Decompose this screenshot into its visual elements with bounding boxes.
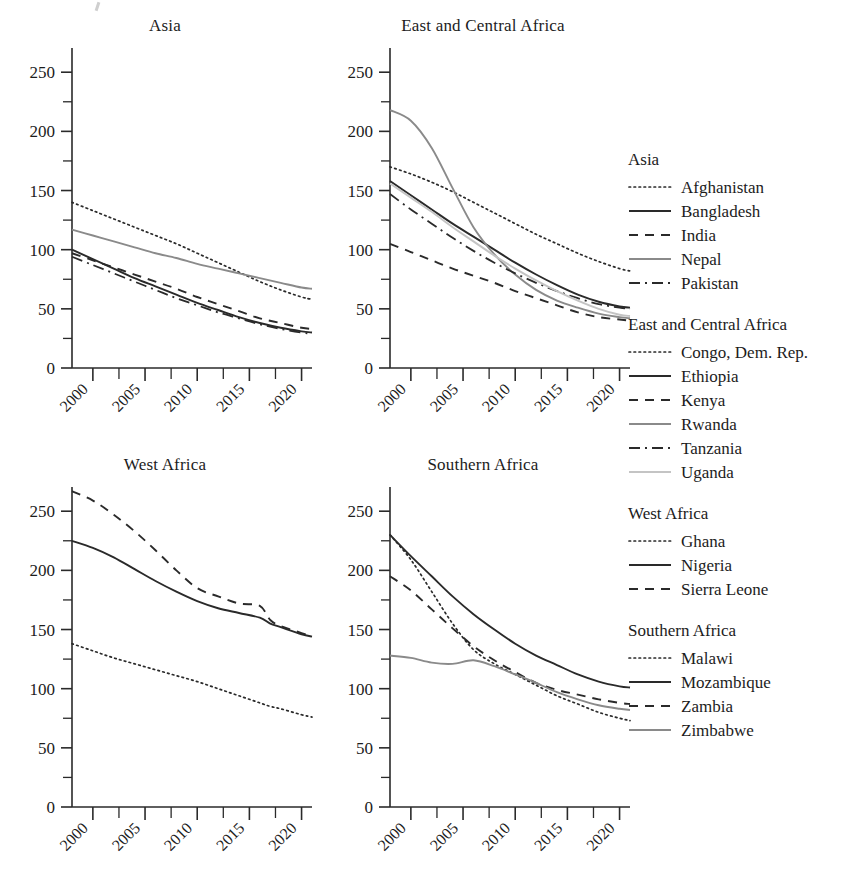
y-tick-label: 200 xyxy=(30,122,56,141)
legend-item[interactable]: Mozambique xyxy=(628,670,851,694)
panel-southern-africa: Southern Africa 050100150200250200020052… xyxy=(318,455,648,871)
legend-group-southern-africa: Southern AfricaMalawiMozambiqueZambiaZim… xyxy=(628,621,851,742)
legend: AsiaAfghanistanBangladeshIndiaNepalPakis… xyxy=(628,150,851,762)
y-tick-label: 200 xyxy=(348,122,374,141)
legend-item-label: India xyxy=(681,227,716,244)
legend-item[interactable]: Malawi xyxy=(628,646,851,670)
legend-item-label: Malawi xyxy=(681,650,733,667)
legend-item[interactable]: Pakistan xyxy=(628,271,851,295)
legend-item-label: Kenya xyxy=(681,392,725,409)
legend-item[interactable]: Bangladesh xyxy=(628,199,851,223)
legend-swatch-dashdot-icon xyxy=(628,277,672,289)
legend-group-asia: AsiaAfghanistanBangladeshIndiaNepalPakis… xyxy=(628,150,851,295)
legend-item-label: Uganda xyxy=(681,464,734,481)
y-tick-label: 50 xyxy=(38,739,55,758)
legend-item[interactable]: Nepal xyxy=(628,247,851,271)
plot-area: 05010015020025020002005201020152020 xyxy=(318,455,648,871)
panel-east-and-central-africa: East and Central Africa 0501001502002502… xyxy=(318,16,648,441)
series-line-nepal xyxy=(72,230,312,289)
x-tick-label: 2015 xyxy=(213,819,248,854)
y-tick-label: 250 xyxy=(348,502,374,521)
y-tick-label: 0 xyxy=(47,798,56,817)
x-tick-label: 2010 xyxy=(479,380,514,415)
legend-swatch-dashed-icon xyxy=(628,229,672,241)
legend-swatch-solid-icon xyxy=(628,676,672,688)
legend-item[interactable]: Rwanda xyxy=(628,412,851,436)
series-line-zimbabwe xyxy=(390,656,630,710)
legend-item-label: Congo, Dem. Rep. xyxy=(681,344,808,361)
x-tick-label: 2000 xyxy=(374,380,409,415)
legend-item-label: Rwanda xyxy=(681,416,737,433)
y-tick-label: 0 xyxy=(365,359,374,378)
y-tick-label: 50 xyxy=(38,300,55,319)
legend-group-title: West Africa xyxy=(628,504,851,524)
legend-item-label: Zimbabwe xyxy=(681,722,754,739)
series-line-congo-dem-rep xyxy=(390,167,630,271)
x-tick-label: 2020 xyxy=(265,380,300,415)
x-tick-label: 2020 xyxy=(265,819,300,854)
legend-item-label: Pakistan xyxy=(681,275,739,292)
legend-item-label: Afghanistan xyxy=(681,179,764,196)
legend-item[interactable]: India xyxy=(628,223,851,247)
legend-item[interactable]: Zambia xyxy=(628,694,851,718)
y-tick-label: 100 xyxy=(30,680,56,699)
legend-item[interactable]: Zimbabwe xyxy=(628,718,851,742)
legend-item[interactable]: Kenya xyxy=(628,388,851,412)
legend-swatch-solid-icon xyxy=(628,370,672,382)
series-line-afghanistan xyxy=(72,202,312,299)
legend-swatch-dashdot-icon xyxy=(628,442,672,454)
series-line-ghana xyxy=(72,644,312,717)
y-tick-label: 250 xyxy=(348,63,374,82)
legend-group-title: Southern Africa xyxy=(628,621,851,641)
series-line-kenya xyxy=(390,244,630,321)
x-tick-label: 2010 xyxy=(161,380,196,415)
legend-item[interactable]: Tanzania xyxy=(628,436,851,460)
legend-swatch-solid-icon xyxy=(628,559,672,571)
y-tick-label: 150 xyxy=(348,621,374,640)
y-tick-label: 100 xyxy=(348,241,374,260)
y-tick-label: 150 xyxy=(30,182,56,201)
legend-item[interactable]: Congo, Dem. Rep. xyxy=(628,340,851,364)
legend-item[interactable]: Nigeria xyxy=(628,553,851,577)
legend-swatch-dashed-icon xyxy=(628,394,672,406)
legend-swatch-solid-icon xyxy=(628,724,672,736)
y-tick-label: 50 xyxy=(356,739,373,758)
y-tick-label: 0 xyxy=(365,798,374,817)
legend-item[interactable]: Sierra Leone xyxy=(628,577,851,601)
x-tick-label: 2000 xyxy=(374,819,409,854)
legend-item[interactable]: Afghanistan xyxy=(628,175,851,199)
legend-group-west-africa: West AfricaGhanaNigeriaSierra Leone xyxy=(628,504,851,601)
y-tick-label: 250 xyxy=(30,502,56,521)
legend-item-label: Ghana xyxy=(681,533,725,550)
series-line-rwanda xyxy=(390,110,630,318)
x-tick-label: 2010 xyxy=(479,819,514,854)
legend-item-label: Zambia xyxy=(681,698,733,715)
legend-swatch-dashed-icon xyxy=(628,700,672,712)
y-tick-label: 100 xyxy=(30,241,56,260)
y-tick-label: 100 xyxy=(348,680,374,699)
y-tick-label: 200 xyxy=(348,561,374,580)
legend-swatch-solid-icon xyxy=(628,466,672,478)
x-tick-label: 2020 xyxy=(583,380,618,415)
y-tick-label: 250 xyxy=(30,63,56,82)
y-tick-label: 200 xyxy=(30,561,56,580)
x-tick-label: 2015 xyxy=(531,380,566,415)
panel-west-africa: West Africa 0501001502002502000200520102… xyxy=(0,455,330,871)
y-tick-label: 0 xyxy=(47,359,56,378)
series-line-malawi xyxy=(390,535,630,721)
legend-swatch-dashed-icon xyxy=(628,583,672,595)
x-tick-label: 2020 xyxy=(583,819,618,854)
legend-item-label: Sierra Leone xyxy=(681,581,768,598)
x-tick-label: 2000 xyxy=(56,819,91,854)
legend-swatch-solid-icon xyxy=(628,205,672,217)
legend-item[interactable]: Ghana xyxy=(628,529,851,553)
legend-swatch-solid-icon xyxy=(628,253,672,265)
legend-item-label: Nigeria xyxy=(681,557,732,574)
legend-item-label: Nepal xyxy=(681,251,722,268)
legend-item[interactable]: Ethiopia xyxy=(628,364,851,388)
y-tick-label: 150 xyxy=(348,182,374,201)
plot-area: 05010015020025020002005201020152020 xyxy=(318,16,648,441)
series-line-tanzania xyxy=(390,194,630,309)
legend-item[interactable]: Uganda xyxy=(628,460,851,484)
x-tick-label: 2015 xyxy=(531,819,566,854)
